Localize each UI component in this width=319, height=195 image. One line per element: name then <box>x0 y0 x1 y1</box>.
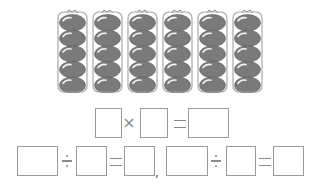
dividend-1-blank[interactable] <box>17 146 58 176</box>
equals-sign <box>110 158 122 166</box>
tomato-bag-5 <box>197 9 228 93</box>
tomato-bag-icon <box>57 9 88 93</box>
factor-2-blank[interactable] <box>140 108 168 138</box>
tomato-bag-4 <box>162 9 193 93</box>
tomato-bag-3 <box>127 9 158 93</box>
divisor-2-blank[interactable] <box>226 146 256 176</box>
divide-sign <box>211 154 221 168</box>
tomato-bag-6 <box>232 9 263 93</box>
tomato-bag-icon <box>232 9 263 93</box>
factor-1-blank[interactable] <box>95 108 122 138</box>
product-blank[interactable] <box>188 108 229 138</box>
quotient-1-blank[interactable] <box>124 146 155 176</box>
equals-sign <box>174 120 186 128</box>
equals-sign <box>259 158 271 166</box>
divide-sign <box>62 154 72 168</box>
tomato-bag-icon <box>162 9 193 93</box>
tomato-bag-2 <box>92 9 123 93</box>
multiply-sign: × <box>122 115 136 131</box>
divisor-1-blank[interactable] <box>76 146 107 176</box>
dividend-2-blank[interactable] <box>166 146 208 176</box>
comma-separator: , <box>155 167 159 179</box>
tomato-bag-icon <box>92 9 123 93</box>
tomato-bag-1 <box>57 9 88 93</box>
tomato-bag-icon <box>197 9 228 93</box>
quotient-2-blank[interactable] <box>273 146 304 176</box>
tomato-bags-picture <box>0 0 319 100</box>
tomato-bag-icon <box>127 9 158 93</box>
